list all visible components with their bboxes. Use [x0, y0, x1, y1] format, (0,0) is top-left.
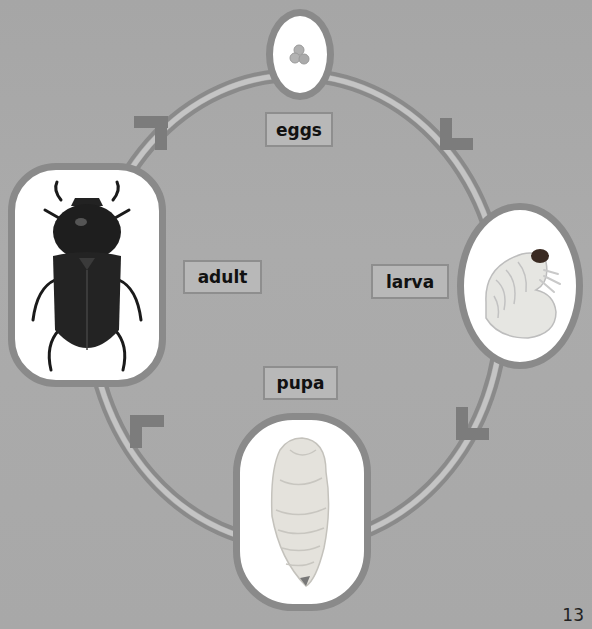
page-number: 13 [562, 605, 584, 625]
adult-frame [8, 163, 166, 387]
arrow-eggs-to-larva-icon [440, 118, 473, 150]
pupa-icon [240, 420, 364, 604]
eggs-frame [266, 9, 334, 100]
eggs-icon [273, 16, 327, 93]
label-adult: adult [183, 260, 262, 294]
label-pupa: pupa [263, 366, 338, 400]
arrow-pupa-to-adult-icon [130, 415, 164, 448]
larva-frame [457, 203, 583, 369]
larva-grub-icon [464, 210, 576, 362]
label-larva: larva [371, 264, 449, 299]
adult-beetle-icon [15, 170, 159, 380]
label-eggs: eggs [265, 112, 333, 147]
pupa-frame [233, 413, 371, 611]
